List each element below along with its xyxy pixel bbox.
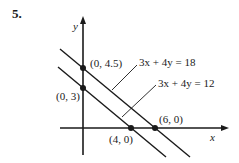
x-axis-arrow-icon <box>221 125 229 131</box>
label-point-4-0: (4, 0) <box>109 133 133 145</box>
point-0-4.5 <box>80 65 86 71</box>
equation-label-18: 3x + 4y = 18 <box>139 56 195 68</box>
label-point-0-4.5: (0, 4.5) <box>90 57 122 69</box>
label-point-6-0: (6, 0) <box>159 113 183 125</box>
x-axis-label: x <box>210 131 215 143</box>
y-axis-label: y <box>73 20 78 32</box>
point-0-3 <box>80 85 86 91</box>
y-axis-arrow-icon <box>80 16 86 24</box>
point-6-0 <box>152 125 158 131</box>
point-4-0 <box>128 125 134 131</box>
equation-label-12: 3x + 4y = 12 <box>158 77 214 89</box>
leader-line-12 <box>122 85 156 117</box>
label-point-0-3: (0, 3) <box>56 90 80 102</box>
